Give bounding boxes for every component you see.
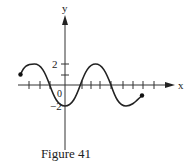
x-axis-label: x [178, 79, 184, 91]
x-axis-arrow-icon [165, 82, 175, 88]
y-axis-label: y [62, 2, 68, 14]
figure-caption: Figure 41 [0, 146, 132, 162]
y-tick-label-neg2: −2 [50, 100, 62, 112]
chart-figure: y x 2 −2 0 [0, 0, 192, 163]
endpoint-left [18, 72, 22, 76]
y-tick-label-2: 2 [52, 58, 58, 70]
origin-label: 0 [57, 88, 62, 99]
endpoint-right [140, 93, 144, 97]
y-axis-arrow-icon [62, 15, 68, 25]
